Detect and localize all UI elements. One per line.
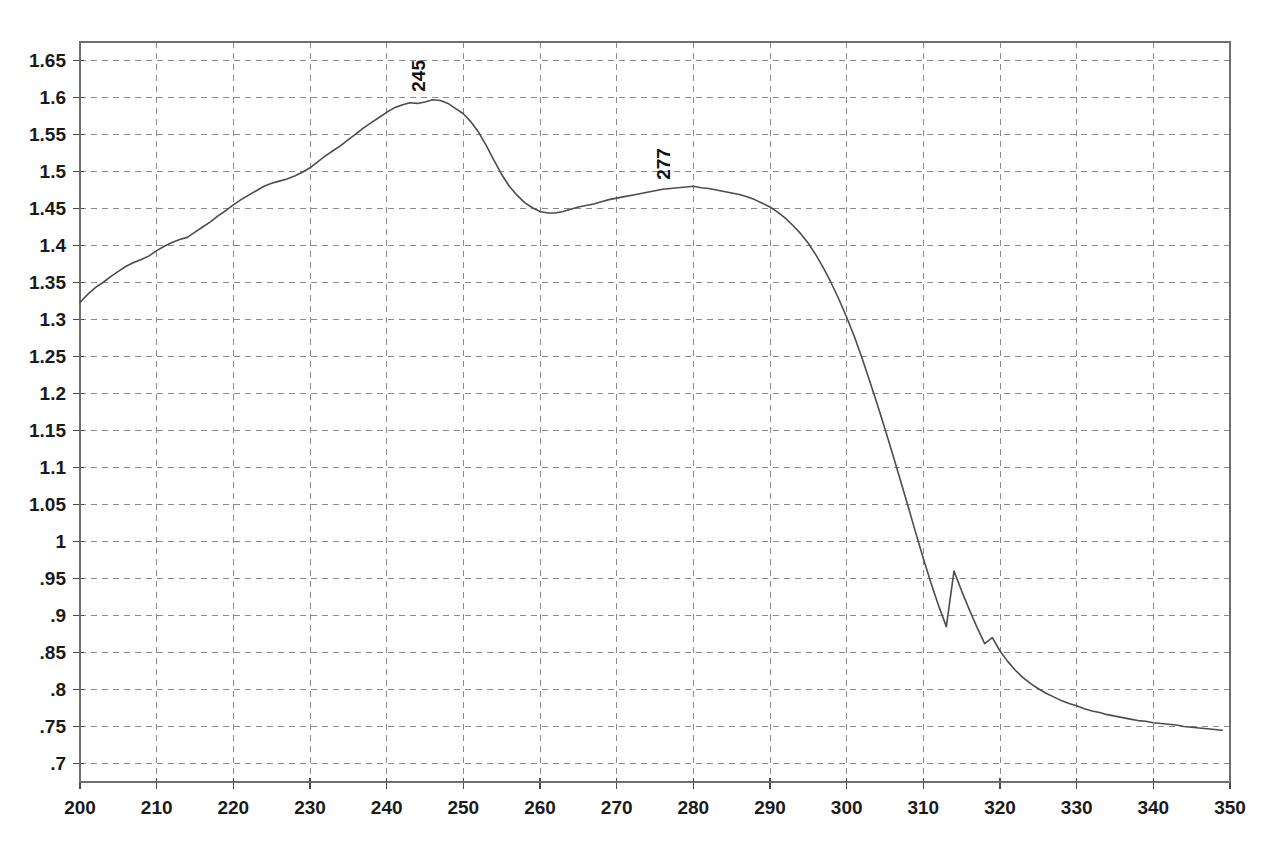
x-axis-tick-label: 350: [1214, 797, 1246, 818]
x-axis-tick-label: 270: [601, 797, 633, 818]
y-axis-tick-label: 1.25: [29, 346, 66, 367]
y-axis-tick-label: 1.55: [29, 124, 66, 145]
y-axis-tick-label: 1.4: [40, 235, 67, 256]
x-axis-tick-labels: 2002102202302402502602702802903003103203…: [64, 797, 1246, 818]
y-axis-tick-label: 1.05: [29, 494, 66, 515]
y-axis-tick-label: 1.65: [29, 50, 66, 71]
y-axis-tick-label: 1: [55, 531, 66, 552]
y-axis-tick-label: .7: [50, 753, 66, 774]
y-axis-tick-label: 1.2: [40, 383, 66, 404]
spectrum-curve: [80, 100, 1222, 730]
x-axis-tick-label: 310: [907, 797, 939, 818]
y-axis-tick-label: 1.1: [40, 457, 67, 478]
x-axis-tick-label: 210: [141, 797, 173, 818]
axis-tick-marks: [73, 61, 1230, 790]
x-axis-tick-label: 330: [1061, 797, 1093, 818]
x-axis-tick-label: 290: [754, 797, 786, 818]
y-axis-tick-label: 1.3: [40, 309, 66, 330]
x-axis-tick-label: 240: [371, 797, 403, 818]
y-axis-tick-label: .8: [50, 679, 66, 700]
x-axis-tick-label: 220: [217, 797, 249, 818]
peak-annotation-label: 245: [408, 60, 429, 92]
y-axis-tick-label: .85: [40, 642, 67, 663]
peak-annotation-label: 277: [653, 148, 674, 180]
x-axis-tick-label: 230: [294, 797, 326, 818]
y-axis-tick-label: 1.45: [29, 198, 66, 219]
y-axis-tick-label: .95: [40, 568, 67, 589]
y-axis-tick-label: 1.15: [29, 420, 66, 441]
y-axis-tick-label: 1.5: [40, 161, 67, 182]
y-axis-tick-label: .75: [40, 716, 67, 737]
x-axis-tick-label: 200: [64, 797, 96, 818]
y-axis-tick-label: .9: [50, 605, 66, 626]
y-axis-tick-labels: .7.75.8.85.9.9511.051.11.151.21.251.31.3…: [29, 50, 66, 774]
spectrum-chart: .7.75.8.85.9.9511.051.11.151.21.251.31.3…: [0, 0, 1279, 856]
x-axis-tick-label: 300: [831, 797, 863, 818]
y-axis-tick-label: 1.6: [40, 87, 66, 108]
x-axis-tick-label: 320: [984, 797, 1016, 818]
x-axis-tick-label: 260: [524, 797, 556, 818]
peak-annotations: 245277: [408, 60, 674, 180]
x-axis-tick-label: 250: [447, 797, 479, 818]
x-axis-tick-label: 280: [677, 797, 709, 818]
y-axis-tick-label: 1.35: [29, 272, 66, 293]
x-axis-tick-label: 340: [1137, 797, 1169, 818]
chart-container: .7.75.8.85.9.9511.051.11.151.21.251.31.3…: [0, 0, 1279, 856]
